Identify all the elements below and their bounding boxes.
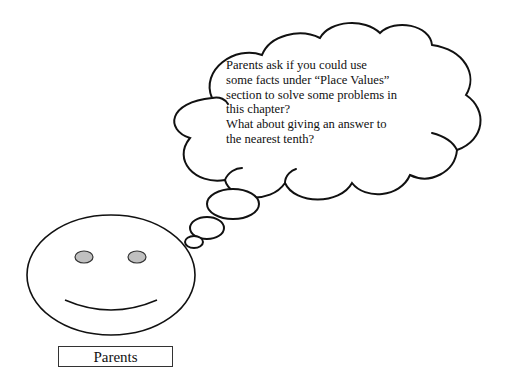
left-eye [75,251,93,263]
thought-line: some facts under “Place Values” [226,73,476,88]
thought-line: section to solve some problems in [226,88,476,103]
thought-line: this chapter? [226,102,476,117]
thought-trail-bubbles [185,189,259,248]
right-eye [128,251,146,263]
thought-line: Parents ask if you could use [226,58,476,73]
diagram-canvas [0,0,511,379]
thought-line: the nearest tenth? [226,132,476,147]
thought-line: What about giving an answer to [226,117,476,132]
thought-text: Parents ask if you could use some facts … [226,58,476,147]
character-label: Parents [58,346,173,367]
smiley-face-icon [27,215,195,335]
